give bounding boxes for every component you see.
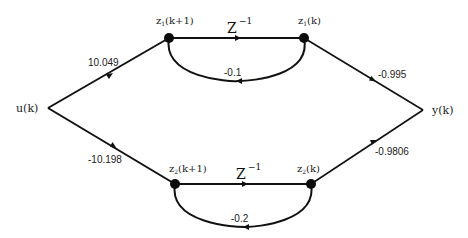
delay-exponent: −1 xyxy=(239,16,252,26)
delay-label: Z xyxy=(227,20,237,36)
node-z1 xyxy=(299,33,309,43)
gain-label: -0.1 xyxy=(224,67,242,78)
branch-input-to-z1: 10.049 xyxy=(48,38,169,108)
node-z2 xyxy=(306,179,316,189)
branch-z1-feedback: -0.1 xyxy=(168,38,304,84)
branch-input-to-z2: -10.198 xyxy=(48,108,175,184)
gain-label: -0.2 xyxy=(231,213,249,224)
branch-z2-to-output: -0.9806 xyxy=(311,110,423,184)
label-z1: z1(k) xyxy=(298,15,321,27)
label-z2-next: z2(k+1) xyxy=(169,163,207,175)
branch-z1-to-output: -0.995 xyxy=(304,38,423,110)
label-z2: z2(k) xyxy=(297,163,320,175)
arrow-icon xyxy=(236,78,242,84)
gain-label: 10.049 xyxy=(88,57,119,68)
delay-label: Z xyxy=(236,166,246,182)
label-z1-next: z1(k+1) xyxy=(156,15,194,27)
output-label: y(k) xyxy=(431,104,453,117)
signal-flow-graph: 10.049 -10.198 Z −1 -0.1 Z −1 xyxy=(0,0,468,238)
gain-label: -10.198 xyxy=(88,154,122,165)
arrow-icon xyxy=(369,76,376,82)
gain-label: -0.9806 xyxy=(375,146,409,157)
input-label: u(k) xyxy=(16,102,38,115)
node-z2-next xyxy=(170,179,180,189)
delay-exponent: −1 xyxy=(248,162,261,172)
branch-z2-feedback: -0.2 xyxy=(174,184,311,230)
gain-label: -0.995 xyxy=(378,69,407,80)
node-z1-next xyxy=(164,33,174,43)
arrow-icon xyxy=(243,224,249,230)
